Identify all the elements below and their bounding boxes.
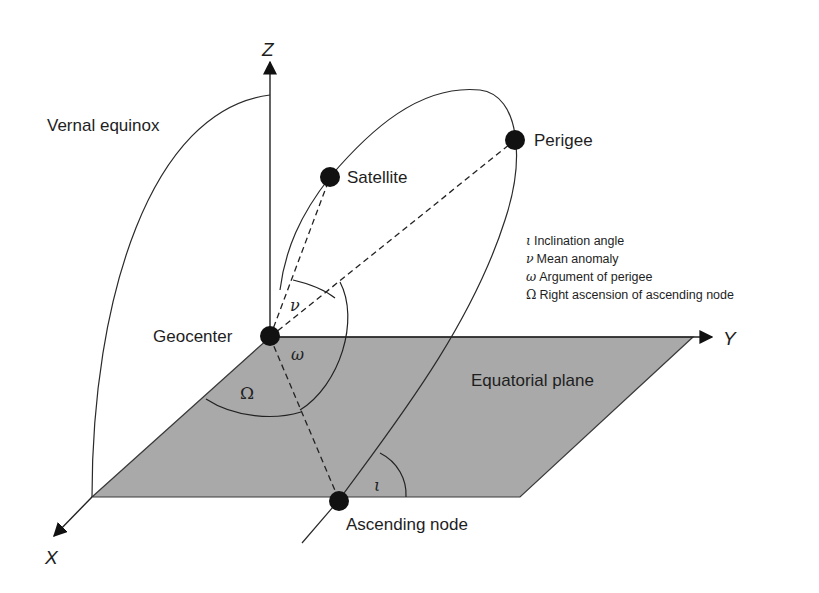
- x-axis-label: X: [45, 548, 58, 567]
- perigee-point: [505, 130, 525, 150]
- legend: ιInclination angle νMean anomaly ωArgume…: [526, 232, 734, 304]
- geocenter-label: Geocenter: [153, 328, 232, 345]
- vernal-equinox-label: Vernal equinox: [47, 117, 159, 134]
- nu-symbol: ν: [290, 298, 300, 314]
- satellite-point: [320, 167, 340, 187]
- legend-item-mean-anomaly: νMean anomaly: [526, 250, 734, 268]
- x-axis: [54, 497, 92, 536]
- ascending-node-label: Ascending node: [346, 516, 468, 533]
- geocenter-point: [260, 326, 280, 346]
- y-axis-label: Y: [723, 329, 736, 348]
- legend-item-raan: ΩRight ascension of ascending node: [526, 286, 734, 304]
- legend-item-argument-of-perigee: ωArgument of perigee: [526, 268, 734, 286]
- geocenter-satellite-line: [270, 177, 330, 337]
- satellite-label: Satellite: [347, 169, 407, 186]
- z-axis-label: Z: [262, 40, 274, 59]
- equatorial-plane-label: Equatorial plane: [471, 372, 594, 389]
- equatorial-plane: [92, 337, 693, 497]
- legend-item-inclination: ιInclination angle: [526, 232, 734, 250]
- omega-symbol: ω: [291, 347, 304, 363]
- perigee-label: Perigee: [534, 132, 593, 149]
- ascending-node-point: [329, 491, 349, 511]
- iota-symbol: ι: [374, 478, 380, 494]
- Omega-symbol: Ω: [240, 385, 254, 402]
